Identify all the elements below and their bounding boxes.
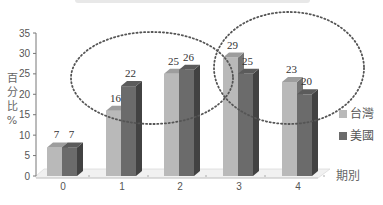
y-axis-title-char: 分 <box>7 86 18 99</box>
bar-value-label: 25 <box>242 55 254 67</box>
bar-value-label: 20 <box>301 75 313 87</box>
bar-value-label: 29 <box>227 39 239 51</box>
x-axis-title: 期別 <box>336 169 360 183</box>
bar-value-label: 26 <box>183 51 195 63</box>
y-axis-title-char: 比 <box>7 100 18 113</box>
bar-value-label: 16 <box>110 92 122 104</box>
x-tick-label: 0 <box>60 181 66 192</box>
annotation-ellipse-1 <box>71 32 233 124</box>
bar-value-label: 25 <box>168 55 180 67</box>
y-tick-label: 5 <box>24 150 30 161</box>
y-tick-label: 35 <box>19 28 31 39</box>
y-tick-label: 0 <box>24 171 30 182</box>
bar-value-label: 23 <box>286 63 298 75</box>
bars: 771622252629252320 <box>47 39 318 176</box>
bar: 7 <box>62 128 83 176</box>
legend: 台灣美國 <box>339 106 374 143</box>
y-axis-title-char: % <box>7 114 17 127</box>
bar: 26 <box>179 51 200 176</box>
y-tick-label: 15 <box>19 109 31 120</box>
legend-swatch <box>339 110 347 118</box>
x-tick-label: 4 <box>295 181 301 192</box>
y-tick-label: 20 <box>19 89 31 100</box>
legend-swatch <box>339 132 347 140</box>
y-axis: 05101520253035 <box>19 28 36 182</box>
x-tick-label: 1 <box>119 181 125 192</box>
bar-value-label: 7 <box>54 128 60 140</box>
y-tick-label: 10 <box>19 130 31 141</box>
legend-label: 台灣 <box>350 106 374 121</box>
legend-label: 美國 <box>350 129 374 143</box>
y-axis-title: 百分比% <box>7 72 18 127</box>
bar-value-label: 7 <box>69 128 75 140</box>
legend-item: 台灣 <box>339 106 374 121</box>
x-axis-labels: 01234 <box>60 181 301 192</box>
y-tick-label: 30 <box>19 48 31 59</box>
legend-item: 美國 <box>339 129 374 143</box>
bar-chart: 05101520253035 771622252629252320 01234 … <box>0 0 383 205</box>
bar-value-label: 22 <box>125 67 136 79</box>
y-tick-label: 25 <box>19 68 31 79</box>
x-tick-label: 3 <box>236 181 242 192</box>
y-axis-title-char: 百 <box>7 72 18 85</box>
x-tick-label: 2 <box>177 181 183 192</box>
